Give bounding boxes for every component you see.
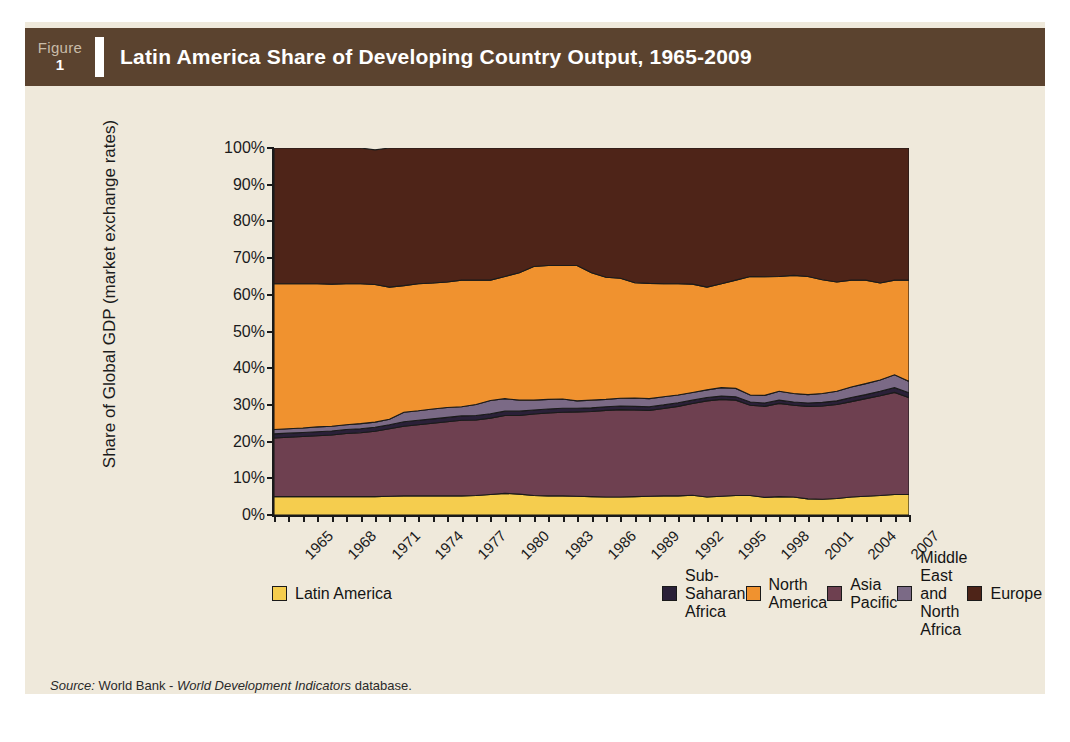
x-axis-label: 1980 [517,527,553,563]
legend-label: Latin America [295,585,392,603]
legend-label: Asia Pacific [850,576,897,612]
y-axis-tick [267,147,274,149]
y-axis-label: 90% [233,176,265,194]
x-axis-tick [462,515,464,522]
y-axis-tick [267,220,274,222]
x-axis-tick [707,515,709,522]
x-axis-tick [505,515,507,522]
x-axis-tick [317,515,319,522]
x-axis-tick [534,515,536,522]
x-axis-tick [750,515,752,522]
x-axis-tick [577,515,579,522]
source-body: World Bank - [98,678,177,693]
legend-item[interactable]: Sub-Saharan Africa [662,567,746,621]
y-axis-tick [267,514,274,516]
legend-swatch-icon [967,586,982,601]
y-axis-tick [267,404,274,406]
x-axis-tick [274,515,276,522]
y-axis-tick [267,184,274,186]
y-axis-label: 40% [233,359,265,377]
legend-label: Sub-Saharan Africa [685,567,746,621]
x-axis-tick [490,515,492,522]
stacked-area-series [274,148,909,515]
x-axis-tick [592,515,594,522]
y-axis-label: 60% [233,286,265,304]
x-axis-tick [346,515,348,522]
legend-item[interactable]: North America [746,576,828,612]
x-axis-label: 1977 [474,527,510,563]
chart-container: Share of Global GDP (market exchange rat… [25,86,1045,694]
x-axis-tick [895,515,897,522]
x-axis-tick [404,515,406,522]
x-axis-tick [563,515,565,522]
y-axis-tick [267,331,274,333]
x-axis-tick [418,515,420,522]
x-axis-tick [779,515,781,522]
x-axis-label: 1986 [604,527,640,563]
legend-label: North America [769,576,828,612]
legend-swatch-icon [662,586,677,601]
x-axis-label: 1965 [301,527,337,563]
x-axis-tick [476,515,478,522]
x-axis-tick [693,515,695,522]
y-axis-tick [267,367,274,369]
source-prefix: Source: [50,678,95,693]
legend-item[interactable]: Europe [967,585,1042,603]
x-axis-tick [880,515,882,522]
figure-word-label: Figure [38,40,82,56]
y-axis-tick [267,441,274,443]
x-axis-tick [361,515,363,522]
legend-swatch-icon [827,586,842,601]
x-axis-tick [664,515,666,522]
legend-swatch-icon [746,586,761,601]
y-axis-label: 0% [242,506,265,524]
x-axis-tick [837,515,839,522]
legend-item[interactable]: Asia Pacific [827,576,897,612]
area-band-europe [274,148,909,287]
source-italic-title: World Development Indicators [177,678,351,693]
x-axis-tick [433,515,435,522]
x-axis-tick [332,515,334,522]
x-axis-tick [866,515,868,522]
x-axis-tick [736,515,738,522]
x-axis-tick [678,515,680,522]
x-axis-tick [288,515,290,522]
x-axis-tick [389,515,391,522]
x-axis-tick [721,515,723,522]
figure-title-bar: Figure 1 Latin America Share of Developi… [25,28,1045,86]
y-axis-label: 30% [233,396,265,414]
legend-item[interactable]: Middle East and North Africa [897,549,967,639]
x-axis-tick [606,515,608,522]
figure-page: Figure 1 Latin America Share of Developi… [25,22,1045,694]
x-axis-tick [303,515,305,522]
x-axis-tick [548,515,550,522]
legend-swatch-icon [897,586,912,601]
x-axis-label: 1983 [561,527,597,563]
x-axis-label: 1998 [777,527,813,563]
y-axis-label: 10% [233,469,265,487]
page-title: Latin America Share of Developing Countr… [120,28,752,86]
x-axis-tick [620,515,622,522]
y-axis-label: 70% [233,249,265,267]
x-axis-tick [649,515,651,522]
x-axis-tick [375,515,377,522]
x-axis-tick [765,515,767,522]
legend-label: Middle East and North Africa [920,549,967,639]
figure-number: 1 [56,56,64,74]
x-axis-tick [822,515,824,522]
y-axis-label: 50% [233,323,265,341]
legend-item[interactable]: Latin America [272,585,662,603]
x-axis-tick [794,515,796,522]
x-axis-tick [851,515,853,522]
y-axis-title: Share of Global GDP (market exchange rat… [100,94,120,494]
title-divider-rule [95,37,104,77]
y-axis-tick [267,294,274,296]
x-axis-tick [447,515,449,522]
y-axis-label: 80% [233,212,265,230]
chart-legend: Latin AmericaSub-Saharan AfricaNorth Ame… [272,580,932,607]
x-axis-tick [519,515,521,522]
plot-area: 0%10%20%30%40%50%60%70%80%90%100%1965196… [272,148,909,517]
source-suffix: database. [351,678,412,693]
x-axis-tick [635,515,637,522]
y-axis-tick [267,257,274,259]
